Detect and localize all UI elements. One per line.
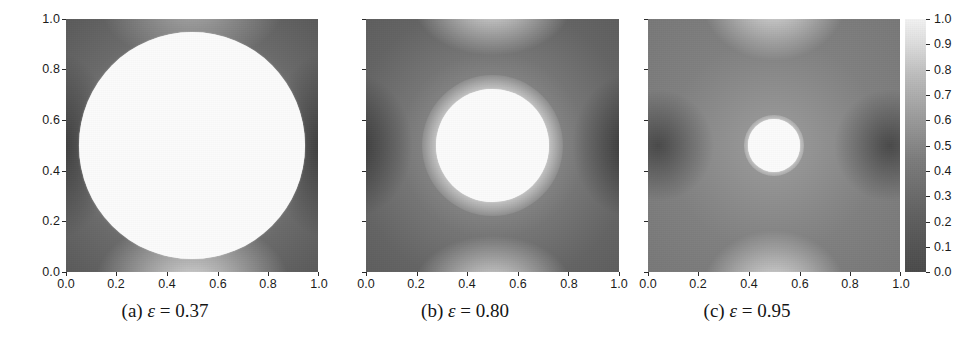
panel-c-ytickmark-0.6 xyxy=(644,120,648,121)
colorbar-tickmark-0.2 xyxy=(926,222,930,223)
panel-b-caption-value: 0.80 xyxy=(476,300,509,321)
panel-b-ytickmark-0.8 xyxy=(362,69,366,70)
colorbar-label-0.7: 0.7 xyxy=(934,88,951,102)
colorbar-label-1.0: 1.0 xyxy=(934,12,951,26)
colorbar-tickmark-0.6 xyxy=(926,120,930,121)
colorbar-label-0.9: 0.9 xyxy=(934,37,951,51)
colorbar-label-0.0: 0.0 xyxy=(934,265,951,279)
colorbar-tickmark-0.5 xyxy=(926,146,930,147)
panel-a-xtick-0.6: 0.6 xyxy=(201,277,235,291)
panel-a-xtickmark-0.4 xyxy=(167,272,168,276)
panel-a-ytickmark-0.4 xyxy=(62,171,66,172)
panel-a-ytick-0.2: 0.2 xyxy=(26,214,60,228)
panel-c-xtick-0.8: 0.8 xyxy=(833,277,867,291)
panel-b-xtick-0.4: 0.4 xyxy=(450,277,484,291)
panel-a-xtick-0.8: 0.8 xyxy=(251,277,285,291)
colorbar-tickmark-0.0 xyxy=(926,272,930,273)
panel-b-inclusion-circle xyxy=(436,89,550,203)
panel-a-xtickmark-0.0 xyxy=(66,272,67,276)
panel-b-xtickmark-0.2 xyxy=(417,272,418,276)
colorbar-tickmark-0.3 xyxy=(926,196,930,197)
panel-b-xtickmark-0.0 xyxy=(366,272,367,276)
panel-c-ytickmark-0.2 xyxy=(644,221,648,222)
colorbar-label-0.8: 0.8 xyxy=(934,63,951,77)
panel-a-xtick-0.4: 0.4 xyxy=(150,277,184,291)
panel-a-ytickmark-1.0 xyxy=(62,19,66,20)
panel-b-caption: (b) ε = 0.80 xyxy=(300,300,630,322)
panel-c-xtickmark-0.8 xyxy=(850,272,851,276)
panel-a-xtick-0.2: 0.2 xyxy=(99,277,133,291)
panel-a-ytickmark-0.6 xyxy=(62,120,66,121)
panel-b: 0.0 0.2 0.4 0.6 0.8 1.0 (b) ε = 0.80 xyxy=(300,0,630,347)
colorbar-tickmark-0.7 xyxy=(926,95,930,96)
colorbar-label-0.3: 0.3 xyxy=(934,189,951,203)
panel-b-ytickmark-0.2 xyxy=(362,221,366,222)
panel-c-xtick-1.0: 1.0 xyxy=(884,277,918,291)
colorbar-label-0.6: 0.6 xyxy=(934,113,951,127)
colorbar-label-0.4: 0.4 xyxy=(934,164,951,178)
panel-a-ytickmark-0.2 xyxy=(62,221,66,222)
panel-b-ytickmark-1.0 xyxy=(362,19,366,20)
panel-c-ytickmark-1.0 xyxy=(644,19,648,20)
panel-b-xtickmark-0.6 xyxy=(518,272,519,276)
colorbar-tickmark-0.8 xyxy=(926,70,930,71)
panel-c-xtick-0.2: 0.2 xyxy=(681,277,715,291)
panel-c-xtick-0.0: 0.0 xyxy=(631,277,665,291)
panel-b-xtickmark-0.4 xyxy=(467,272,468,276)
panel-b-xtick-0.8: 0.8 xyxy=(552,277,586,291)
panel-c-plot-area xyxy=(648,19,900,272)
panel-c-xtick-0.6: 0.6 xyxy=(783,277,817,291)
panel-c-ytickmark-0.8 xyxy=(644,69,648,70)
panel-c-xtickmark-0.6 xyxy=(800,272,801,276)
panel-b-xtick-0.6: 0.6 xyxy=(501,277,535,291)
figure-three-panel-heatmaps: 1.0 0.8 0.6 0.4 0.2 0.0 0.0 0.2 0.4 0.6 … xyxy=(0,0,979,347)
panel-a-ytick-0.4: 0.4 xyxy=(26,164,60,178)
panel-a-caption-prefix: (a) xyxy=(122,300,143,321)
panel-b-xtick-0.0: 0.0 xyxy=(349,277,383,291)
panel-a-ytick-0.8: 0.8 xyxy=(26,62,60,76)
colorbar-noise-texture xyxy=(905,19,926,272)
panel-c-xtickmark-0.0 xyxy=(648,272,649,276)
panel-a-plot-area xyxy=(66,19,318,272)
panel-a-caption-symbol: ε xyxy=(147,300,155,321)
panel-c-inclusion-circle xyxy=(748,119,800,171)
panel-a-ytick-1.0: 1.0 xyxy=(26,12,60,26)
colorbar-tickmark-0.9 xyxy=(926,44,930,45)
panel-a-caption: (a) ε = 0.37 xyxy=(0,300,330,322)
panel-c-caption-symbol: ε xyxy=(729,300,737,321)
panel-c: 0.0 0.2 0.4 0.6 0.8 1.0 (c) ε = 0.95 xyxy=(582,0,912,347)
panel-a-xtick-0.0: 0.0 xyxy=(49,277,83,291)
panel-c-caption: (c) ε = 0.95 xyxy=(582,300,912,322)
panel-a-inclusion-circle xyxy=(79,32,306,260)
panel-c-xtickmark-0.2 xyxy=(698,272,699,276)
panel-a-xtickmark-0.2 xyxy=(116,272,117,276)
panel-b-caption-equals: = xyxy=(460,300,471,321)
panel-b-caption-symbol: ε xyxy=(448,300,456,321)
colorbar-tickmark-0.1 xyxy=(926,247,930,248)
panel-c-xtickmark-0.4 xyxy=(749,272,750,276)
colorbar-label-0.5: 0.5 xyxy=(934,139,951,153)
panel-b-ytickmark-0.4 xyxy=(362,171,366,172)
panel-c-caption-value: 0.95 xyxy=(757,300,790,321)
panel-c-xtickmark-1.0 xyxy=(900,272,901,276)
panel-b-ytickmark-0.6 xyxy=(362,120,366,121)
colorbar-tickmark-1.0 xyxy=(926,19,930,20)
panel-a-xtickmark-0.8 xyxy=(268,272,269,276)
panel-a-ytickmark-0.8 xyxy=(62,69,66,70)
colorbar-tickmark-0.4 xyxy=(926,171,930,172)
panel-b-caption-prefix: (b) xyxy=(421,300,443,321)
panel-c-ytickmark-0.4 xyxy=(644,171,648,172)
panel-a-caption-equals: = xyxy=(160,300,171,321)
colorbar xyxy=(905,19,926,272)
colorbar-label-0.1: 0.1 xyxy=(934,240,951,254)
panel-b-xtickmark-0.8 xyxy=(568,272,569,276)
panel-a: 1.0 0.8 0.6 0.4 0.2 0.0 0.0 0.2 0.4 0.6 … xyxy=(0,0,330,347)
panel-c-caption-equals: = xyxy=(742,300,753,321)
panel-a-ytick-0.6: 0.6 xyxy=(26,113,60,127)
panel-b-xtick-0.2: 0.2 xyxy=(399,277,433,291)
panel-c-xtick-0.4: 0.4 xyxy=(732,277,766,291)
panel-a-caption-value: 0.37 xyxy=(175,300,208,321)
panel-c-caption-prefix: (c) xyxy=(704,300,725,321)
panel-a-xtickmark-0.6 xyxy=(218,272,219,276)
colorbar-label-0.2: 0.2 xyxy=(934,215,951,229)
